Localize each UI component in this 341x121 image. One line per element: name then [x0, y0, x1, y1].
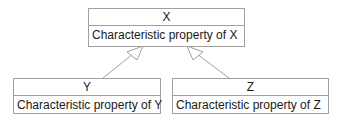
class-property: Characteristic property of X — [89, 26, 244, 44]
class-name: Z — [173, 79, 328, 96]
edge-z-to-x — [187, 46, 229, 78]
class-property: Characteristic property of Y — [14, 96, 160, 114]
edge-y-to-x — [103, 46, 143, 78]
generalization-arrowhead-icon — [187, 46, 203, 60]
class-name: X — [89, 9, 244, 26]
class-property: Characteristic property of Z — [173, 96, 328, 114]
class-box-x[interactable]: X Characteristic property of X — [88, 8, 245, 47]
generalization-arrowhead-icon — [127, 46, 143, 60]
class-box-z[interactable]: Z Characteristic property of Z — [172, 78, 329, 114]
class-name: Y — [14, 79, 160, 96]
class-box-y[interactable]: Y Characteristic property of Y — [13, 78, 161, 114]
